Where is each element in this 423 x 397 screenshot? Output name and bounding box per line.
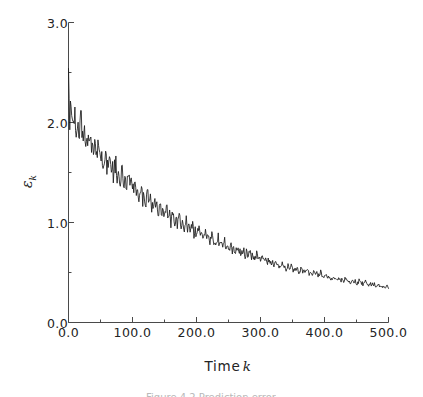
x-tick-label: 300.0 — [242, 325, 280, 340]
x-tick-label: 500.0 — [370, 325, 408, 340]
x-axis-title: Timek — [204, 358, 251, 374]
y-tick-label: 3.0 — [47, 15, 68, 30]
y-tick-label: 2.0 — [47, 115, 68, 130]
y-axis-title: εk — [19, 175, 38, 188]
y-tick-label: 0.0 — [47, 315, 68, 330]
figure-caption-clipped: Figure 4.2 Prediction error — [146, 388, 276, 397]
x-tick-label: 200.0 — [178, 325, 216, 340]
x-tick-label: 100.0 — [114, 325, 152, 340]
figure-canvas: 0.0100.0200.0300.0400.0500.0 0.01.02.03.… — [0, 0, 423, 397]
y-axis-title-subscript: k — [28, 175, 38, 180]
data-series-line — [69, 69, 389, 289]
y-tick-label: 1.0 — [47, 215, 68, 230]
y-axis-title-symbol: ε — [19, 180, 35, 188]
x-axis-title-variable: k — [241, 358, 252, 374]
x-tick-label: 400.0 — [306, 325, 344, 340]
y-axis-ticks — [69, 23, 75, 323]
x-axis-title-text: Time — [204, 358, 240, 374]
x-axis-ticks — [69, 317, 389, 323]
